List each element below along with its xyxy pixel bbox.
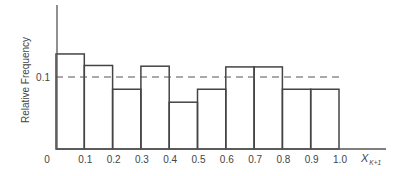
x-axis-label: XK+1 bbox=[360, 152, 381, 166]
x-tick-labels: 00.10.20.30.40.50.60.70.80.91.0 bbox=[44, 154, 347, 165]
x-tick-label: 0.1 bbox=[78, 154, 92, 165]
x-tick-label: 0.8 bbox=[276, 154, 290, 165]
x-tick-label: 0.5 bbox=[192, 154, 206, 165]
histogram-bar bbox=[254, 67, 282, 149]
x-tick-label: 0.6 bbox=[220, 154, 234, 165]
histogram-bar bbox=[113, 89, 141, 149]
histogram-bar bbox=[311, 89, 339, 149]
y-axis-label: Relative Frequency bbox=[20, 37, 31, 123]
histogram-bar bbox=[141, 66, 169, 149]
x-tick-label: 0.9 bbox=[305, 154, 319, 165]
histogram-chart: 00.10.20.30.40.50.60.70.80.91.0 0.1 Rela… bbox=[0, 0, 401, 176]
x-tick-label: 0.7 bbox=[248, 154, 262, 165]
x-tick-label: 0.2 bbox=[107, 154, 121, 165]
histogram-bar bbox=[84, 65, 112, 149]
x-tick-label: 1.0 bbox=[333, 154, 347, 165]
histogram-bar bbox=[226, 67, 254, 149]
histogram-bar bbox=[169, 102, 197, 149]
y-tick-label: 0.1 bbox=[36, 72, 50, 83]
x-tick-label: 0 bbox=[44, 154, 50, 165]
histogram-bars bbox=[56, 54, 339, 149]
histogram-bar bbox=[282, 89, 310, 149]
x-tick-label: 0.4 bbox=[163, 154, 177, 165]
histogram-bar bbox=[198, 89, 226, 149]
histogram-bar bbox=[56, 54, 84, 149]
x-tick-label: 0.3 bbox=[135, 154, 149, 165]
